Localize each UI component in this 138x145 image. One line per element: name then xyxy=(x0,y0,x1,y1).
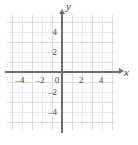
y-tick-label: –2 xyxy=(44,88,57,97)
x-tick-label: 2 xyxy=(79,76,84,85)
x-tick-label: –2 xyxy=(36,76,45,85)
y-axis-line xyxy=(61,12,63,133)
x-tick-label: –4 xyxy=(16,76,25,85)
y-tick-label: –4 xyxy=(44,108,57,117)
x-axis-line xyxy=(5,71,121,73)
y-axis-label: y xyxy=(66,1,71,12)
y-tick-label: 4 xyxy=(44,28,57,37)
x-axis-label: x xyxy=(124,67,129,78)
x-tick-label: 4 xyxy=(99,76,104,85)
y-axis-arrow-icon xyxy=(59,9,65,14)
y-tick-label: 2 xyxy=(44,48,57,57)
x-tick-label: 0 xyxy=(55,76,60,85)
coordinate-plane-figure: x y –4–2024 42–2–4 xyxy=(0,0,138,145)
